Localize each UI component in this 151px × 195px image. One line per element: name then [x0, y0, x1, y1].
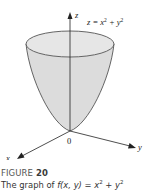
- paraboloid-figure: z z = x2 + y2 0 y x: [0, 0, 151, 160]
- z-axis-arrow-icon: [68, 12, 73, 19]
- figure-number: FIGURE 20: [1, 168, 48, 178]
- caption-exp2: 2: [120, 179, 124, 185]
- x-axis-arrow-icon: [17, 153, 25, 160]
- equation-mid: + y: [107, 17, 121, 27]
- x-axis: [22, 131, 70, 156]
- equation-label: z = x2 + y2: [86, 17, 124, 28]
- y-axis-arrow-icon: [128, 143, 136, 149]
- figure-caption: The graph of f(x, y) = x2 + y2: [1, 180, 124, 190]
- figure-label: FIGURE: [1, 168, 33, 178]
- y-axis-label: y: [137, 142, 142, 152]
- caption-prefix: The graph of: [1, 180, 57, 190]
- origin-label: 0: [67, 136, 71, 146]
- z-axis-label: z: [74, 10, 79, 20]
- figure-number-value: 20: [36, 168, 48, 178]
- x-axis-label: x: [5, 153, 10, 160]
- equation-lhs: z = x: [86, 17, 104, 27]
- y-axis: [70, 131, 130, 146]
- caption-function: f(x, y) = x: [57, 180, 99, 190]
- equation-exp2: 2: [121, 17, 124, 23]
- caption-plus: + y: [103, 180, 120, 190]
